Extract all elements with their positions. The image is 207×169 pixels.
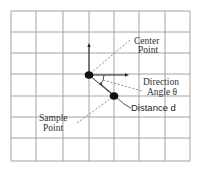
center-point-dot [85, 71, 94, 79]
direction-angle-label-line2: Angle θ [147, 87, 178, 97]
center-point-label-line2: Point [138, 45, 158, 55]
direction-angle-label-line1: Direction [143, 77, 179, 87]
sample-point-label-line2: Point [43, 123, 63, 133]
sample-point-label-line1: Sample [39, 113, 68, 123]
direction-distance-diagram: Center Point Direction Angle θ Distance … [0, 0, 207, 169]
distance-label: Distance d [131, 102, 176, 113]
axes [87, 43, 129, 77]
sample-point-dot [110, 92, 119, 100]
center-point-leader [92, 40, 130, 72]
direction-angle-leader [103, 80, 142, 91]
direction-line [89, 75, 114, 96]
up-arrow-icon [87, 43, 90, 47]
sample-point-leader [77, 99, 110, 123]
